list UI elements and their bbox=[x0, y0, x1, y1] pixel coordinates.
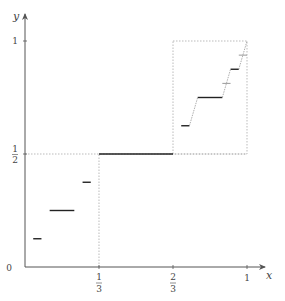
x-axis-label: x bbox=[266, 269, 273, 282]
cantor-function-plot: x y 132310121 bbox=[0, 0, 285, 301]
x-tick-label-den: 3 bbox=[96, 284, 102, 294]
y-tick-label-den: 2 bbox=[12, 155, 18, 165]
connector-line bbox=[189, 98, 197, 126]
x-tick-label-num: 2 bbox=[170, 272, 176, 282]
y-tick-label-num: 1 bbox=[12, 144, 18, 154]
y-axis-label: y bbox=[12, 10, 20, 23]
ticks: 132310121 bbox=[6, 36, 250, 294]
x-tick-label-num: 1 bbox=[96, 272, 102, 282]
x-tick-label-den: 3 bbox=[170, 284, 176, 294]
y-tick-label: 1 bbox=[12, 36, 18, 46]
y-tick-label: 0 bbox=[6, 263, 12, 273]
staircase-steps bbox=[33, 41, 247, 239]
x-tick-label: 1 bbox=[244, 273, 250, 283]
axes: x y bbox=[12, 10, 273, 282]
